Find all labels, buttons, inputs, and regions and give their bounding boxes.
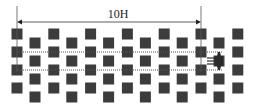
array-element bbox=[85, 47, 96, 58]
dimension-arrow-right-icon bbox=[196, 20, 201, 25]
array-element bbox=[103, 38, 114, 49]
array-element bbox=[140, 92, 151, 103]
array-element bbox=[66, 92, 77, 103]
array-element bbox=[103, 92, 114, 103]
array-element bbox=[66, 38, 77, 49]
diagram-canvas: 10H bbox=[0, 0, 254, 110]
array-element bbox=[159, 29, 170, 40]
array-element bbox=[159, 83, 170, 94]
array-element bbox=[122, 29, 133, 40]
array-element bbox=[214, 74, 225, 85]
array-element bbox=[48, 29, 59, 40]
array-element bbox=[214, 92, 225, 103]
dimension-arrow-left-icon bbox=[17, 20, 22, 25]
array-element bbox=[232, 83, 243, 94]
array-element bbox=[177, 56, 188, 67]
array-element bbox=[122, 83, 133, 94]
array-element bbox=[30, 92, 41, 103]
array-element bbox=[66, 56, 77, 67]
array-element bbox=[140, 56, 151, 67]
array-element bbox=[85, 83, 96, 94]
probe-icon bbox=[207, 52, 223, 70]
array-element bbox=[85, 65, 96, 76]
array-element bbox=[103, 56, 114, 67]
array-element bbox=[177, 92, 188, 103]
array-element bbox=[48, 83, 59, 94]
array-element bbox=[66, 74, 77, 85]
array-element bbox=[196, 83, 207, 94]
array-element bbox=[30, 74, 41, 85]
array-element bbox=[232, 29, 243, 40]
array-element bbox=[12, 83, 23, 94]
array-element bbox=[140, 38, 151, 49]
array-element bbox=[85, 29, 96, 40]
dimension-label: 10H bbox=[108, 7, 129, 21]
array-element bbox=[103, 74, 114, 85]
array-element bbox=[232, 47, 243, 58]
array-element bbox=[30, 56, 41, 67]
array-element bbox=[232, 65, 243, 76]
array-element bbox=[177, 74, 188, 85]
array-element bbox=[140, 74, 151, 85]
array-element bbox=[159, 47, 170, 58]
array-element bbox=[159, 65, 170, 76]
array-element bbox=[214, 38, 225, 49]
array-element bbox=[30, 38, 41, 49]
element-array bbox=[12, 29, 244, 103]
array-element bbox=[177, 38, 188, 49]
